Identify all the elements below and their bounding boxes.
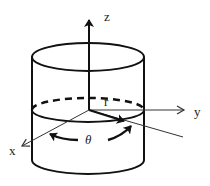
theta-arrow-right bbox=[108, 126, 131, 140]
z-axis-label: z bbox=[104, 9, 110, 24]
cross-section-front-solid bbox=[32, 110, 144, 122]
y-axis-label: y bbox=[194, 104, 201, 119]
cylinder-bottom-arc bbox=[32, 160, 144, 174]
radius-vector bbox=[89, 110, 124, 121]
theta-label: θ bbox=[85, 132, 92, 147]
theta-arrow-left bbox=[50, 134, 78, 140]
x-axis-label: x bbox=[9, 143, 16, 158]
cylindrical-coordinates-diagram: z y x r θ bbox=[0, 0, 210, 186]
radius-label: r bbox=[104, 94, 109, 109]
